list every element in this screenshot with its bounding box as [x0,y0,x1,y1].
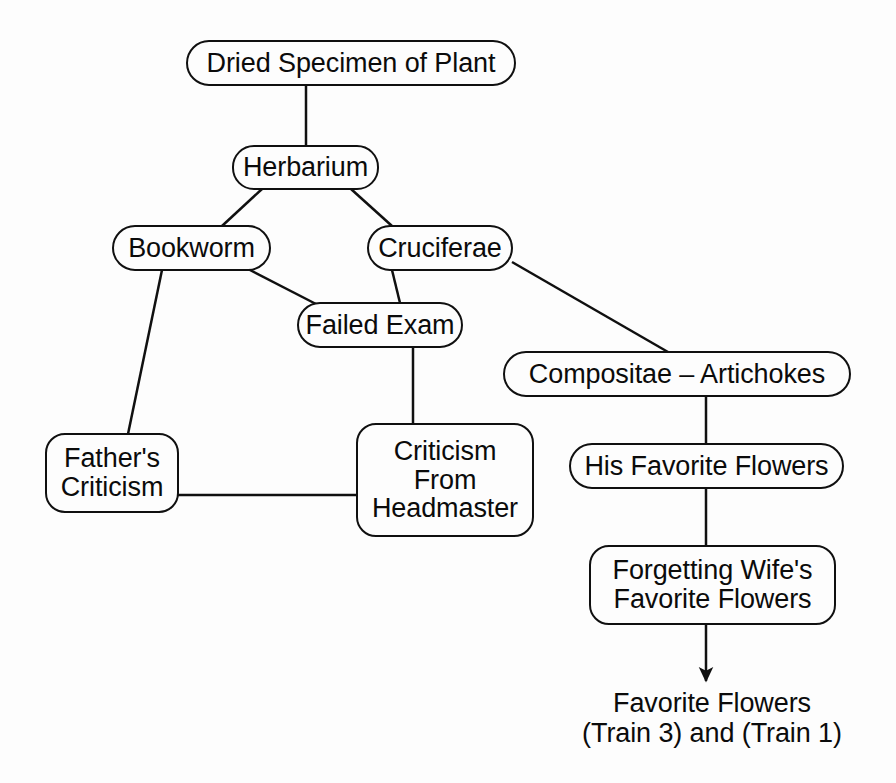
edge-cruciferae-to-compositae [512,262,668,352]
node-dried-specimen[interactable]: Dried Specimen of Plant [186,40,516,86]
edge-cruciferae-to-failed-exam [392,270,400,303]
node-compositae-artichokes[interactable]: Compositae – Artichokes [503,351,851,397]
edge-bookworm-to-fathers-criticism [128,270,162,434]
node-bookworm[interactable]: Bookworm [112,225,271,271]
edge-herbarium-to-cruciferae [351,189,392,226]
diagram-canvas: Dried Specimen of PlantHerbariumBookworm… [0,0,896,783]
node-his-favorite-flowers[interactable]: His Favorite Flowers [569,443,844,489]
node-fathers-criticism[interactable]: Father's Criticism [45,433,179,513]
label-favorite-flowers-trains: Favorite Flowers (Train 3) and (Train 1) [562,685,862,751]
node-herbarium[interactable]: Herbarium [232,145,379,190]
edge-herbarium-to-bookworm [222,189,262,226]
edge-bookworm-to-failed-exam [248,269,316,304]
node-failed-exam[interactable]: Failed Exam [297,302,463,348]
node-criticism-from-headmaster[interactable]: Criticism From Headmaster [356,423,534,537]
node-cruciferae[interactable]: Cruciferae [367,225,513,271]
node-forgetting-wifes-favorite-flowers[interactable]: Forgetting Wife's Favorite Flowers [589,545,836,625]
